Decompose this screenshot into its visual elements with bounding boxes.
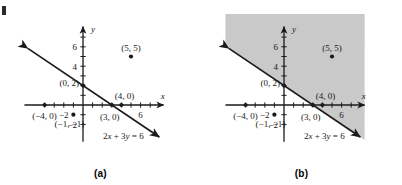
axes-a bbox=[24, 26, 163, 141]
data-point bbox=[272, 113, 276, 117]
plotted-points-a bbox=[43, 54, 134, 116]
data-point bbox=[129, 54, 133, 58]
graph-a: −2646−2xy(0, 2)(3, 0)(4, 0)(5, 5)(−4, 0)… bbox=[0, 0, 201, 185]
label-text: 6 bbox=[138, 110, 143, 120]
label-text: y bbox=[90, 24, 95, 34]
label-text: (0, 2) bbox=[60, 78, 80, 88]
label-text: (4, 0) bbox=[316, 91, 336, 101]
panel-b-caption: (b) bbox=[201, 168, 402, 179]
label-text: 4 bbox=[73, 62, 78, 72]
label-text: (5, 5) bbox=[322, 43, 342, 53]
data-point bbox=[320, 103, 324, 107]
label-text: 6 bbox=[73, 42, 78, 52]
data-point bbox=[110, 103, 114, 107]
label-text: (−1, −1) bbox=[55, 119, 85, 129]
label-text: (4, 0) bbox=[115, 91, 135, 101]
label-text: 6 bbox=[274, 42, 279, 52]
data-point bbox=[244, 103, 248, 107]
data-point bbox=[311, 103, 315, 107]
data-point bbox=[330, 54, 334, 58]
boundary-line-a bbox=[28, 48, 160, 137]
data-point bbox=[71, 113, 75, 117]
panel-a-caption: (a) bbox=[0, 168, 201, 179]
label-text: x bbox=[361, 91, 366, 101]
figure-container: −2646−2xy(0, 2)(3, 0)(4, 0)(5, 5)(−4, 0)… bbox=[0, 0, 402, 185]
label-text: 6 bbox=[339, 110, 344, 120]
panel-b: −2646−2xy(0, 2)(3, 0)(4, 0)(5, 5)(−4, 0)… bbox=[201, 0, 402, 185]
data-point bbox=[282, 84, 286, 88]
graph-b: −2646−2xy(0, 2)(3, 0)(4, 0)(5, 5)(−4, 0)… bbox=[201, 0, 402, 185]
labels-a: −2646−2xy(0, 2)(3, 0)(4, 0)(5, 5)(−4, 0)… bbox=[32, 24, 164, 141]
data-point bbox=[119, 103, 123, 107]
data-point bbox=[43, 103, 47, 107]
label-text: (3, 0) bbox=[301, 112, 321, 122]
label-text: (−1, −1) bbox=[256, 119, 286, 129]
label-text: x bbox=[160, 91, 165, 101]
data-point bbox=[81, 84, 85, 88]
label-text: (3, 0) bbox=[100, 112, 120, 122]
label-text: (5, 5) bbox=[121, 43, 141, 53]
equation-label: 2x + 3y = 6 bbox=[304, 131, 345, 141]
equation-label: 2x + 3y = 6 bbox=[103, 131, 144, 141]
panel-a: −2646−2xy(0, 2)(3, 0)(4, 0)(5, 5)(−4, 0)… bbox=[0, 0, 201, 185]
line-2x-3y-6 bbox=[28, 48, 160, 137]
label-text: (−4, 0) bbox=[32, 111, 57, 121]
label-text: (−4, 0) bbox=[233, 111, 258, 121]
label-text: 4 bbox=[274, 62, 279, 72]
label-text: (0, 2) bbox=[261, 78, 281, 88]
label-text: y bbox=[291, 24, 296, 34]
